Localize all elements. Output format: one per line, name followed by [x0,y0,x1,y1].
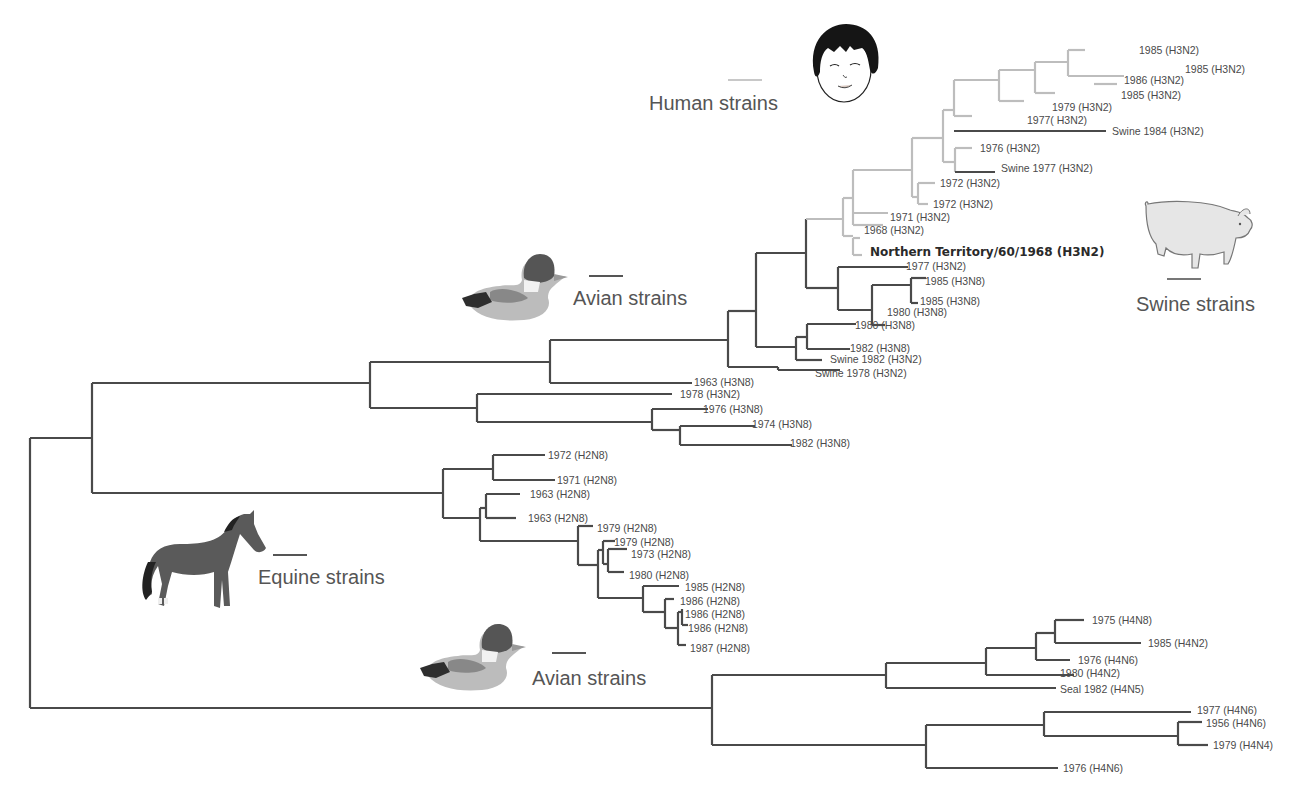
leaf-label: Swine 1982 (H3N2) [830,353,922,365]
leaf-label: 1973 (H2N8) [631,548,691,560]
human-legend-swatch [728,79,762,81]
horse-icon [140,500,272,615]
duck-icon [460,250,572,322]
leaf-label: 1971 (H2N8) [557,474,617,486]
leaf-label: 1963 (H2N8) [530,488,590,500]
leaf-label: 1976 (H4N6) [1078,654,1138,666]
leaf-label: 1972 (H3N2) [933,198,993,210]
leaf-label: 1963 (H3N8) [694,376,754,388]
leaf-label: 1985 (H3N8) [925,275,985,287]
phylogenetic-tree: 1985 (H3N2) 1985 (H3N2) 1986 (H3N2) 1985… [0,0,1305,801]
leaf-label: 1980 (H3N8) [855,319,915,331]
human-face-icon [806,22,884,108]
avian-lower-legend-label: Avian strains [532,667,646,690]
leaf-label: Swine 1977 (H3N2) [1001,162,1093,174]
leaf-label: 1979 (H3N2) [1052,101,1112,113]
avian-upper-legend-label: Avian strains [573,287,687,310]
leaf-label: 1985 (H3N2) [1139,44,1199,56]
leaf-label: Swine 1978 (H3N2) [815,367,907,379]
leaf-label: 1968 (H3N2) [864,224,924,236]
leaf-label: 1986 (H2N8) [688,622,748,634]
leaf-label: 1976 (H4N6) [1063,762,1123,774]
leaf-label: Swine 1984 (H3N2) [1112,125,1204,137]
leaf-label: 1982 (H3N8) [790,437,850,449]
leaf-label: 1979 (H4N4) [1213,739,1273,751]
leaf-label: 1976 (H3N8) [703,403,763,415]
leaf-label: 1976 (H3N2) [980,142,1040,154]
swine-legend-swatch [1167,278,1201,280]
leaf-label: 1986 (H3N2) [1124,74,1184,86]
duck-icon [418,620,530,692]
avian-upper-legend-swatch [589,275,623,277]
leaf-label: 1985 (H4N2) [1148,637,1208,649]
leaf-label: 1977 (H3N2) [906,260,966,272]
leaf-labels: 1985 (H3N2) 1985 (H3N2) 1986 (H3N2) 1985… [528,44,1273,774]
leaf-label: 1980 (H4N2) [1060,667,1120,679]
leaf-label: 1987 (H2N8) [690,642,750,654]
leaf-label: 1985 (H2N8) [685,581,745,593]
leaf-label: 1978 (H3N2) [680,388,740,400]
swine-legend-label: Swine strains [1136,293,1255,316]
leaf-label: 1985 (H3N2) [1185,63,1245,75]
leaf-label: 1974 (H3N8) [752,418,812,430]
leaf-label: 1986 (H2N8) [685,608,745,620]
leaf-label: 1971 (H3N2) [890,211,950,223]
equine-legend-label: Equine strains [258,566,385,589]
leaf-label: 1975 (H4N8) [1092,614,1152,626]
leaf-label: 1979 (H2N8) [614,536,674,548]
equine-legend-swatch [273,554,307,556]
leaf-label: 1980 (H3N8) [887,306,947,318]
leaf-label: 1979 (H2N8) [597,522,657,534]
leaf-label: 1977( H3N2) [1027,114,1087,126]
human-legend-label: Human strains [649,92,778,115]
leaf-label: 1985 (H3N2) [1121,89,1181,101]
leaf-label: Seal 1982 (H4N5) [1060,683,1144,695]
leaf-label: 1980 (H2N8) [629,569,689,581]
highlighted-strain-label: Northern Territory/60/1968 (H3N2) [870,245,1104,259]
leaf-label: 1972 (H2N8) [548,449,608,461]
avian-lower-legend-swatch [552,652,586,654]
leaf-label: 1986 (H2N8) [680,595,740,607]
leaf-label: 1963 (H2N8) [528,512,588,524]
leaf-label: 1972 (H3N2) [940,177,1000,189]
leaf-label: 1977 (H4N6) [1197,704,1257,716]
leaf-label: 1956 (H4N6) [1206,717,1266,729]
pig-icon [1138,198,1256,270]
